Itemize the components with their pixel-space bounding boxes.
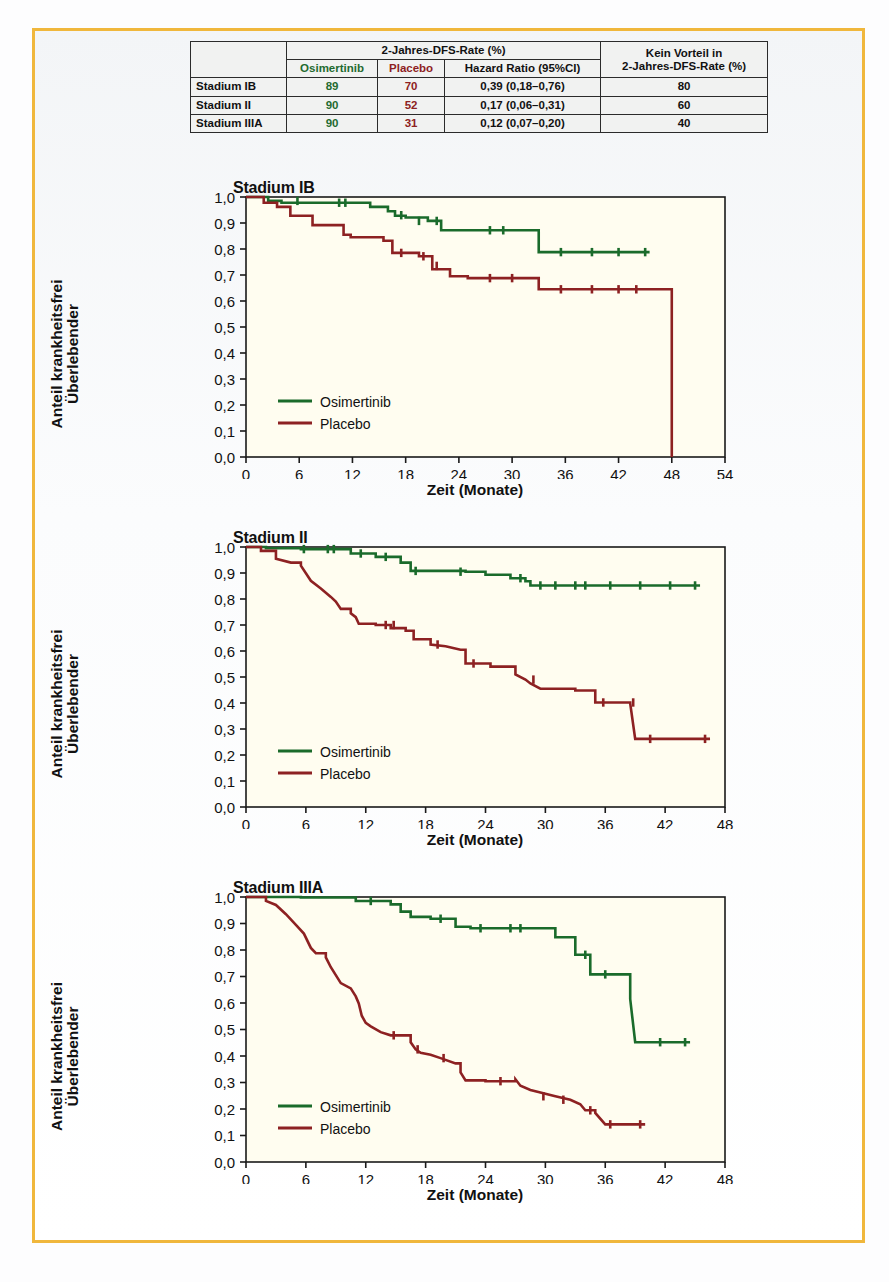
chart-plot-area: 0,00,10,20,30,40,50,60,70,80,91,00612182… bbox=[35, 179, 868, 479]
table-corner-cell bbox=[191, 42, 287, 78]
chart-plot-area: 0,00,10,20,30,40,50,60,70,80,91,00612182… bbox=[35, 879, 868, 1184]
y-tick-label: 0,0 bbox=[214, 799, 235, 816]
table-col-placebo: Placebo bbox=[378, 60, 445, 78]
y-tick-label: 0,6 bbox=[214, 293, 235, 310]
x-tick-label: 42 bbox=[610, 466, 627, 479]
kein-vorteil-line2: 2-Jahres-DFS-Rate (%) bbox=[622, 60, 746, 72]
x-tick-label: 24 bbox=[477, 816, 494, 829]
y-tick-label: 0,2 bbox=[214, 1101, 235, 1118]
row-kein-vorteil-value: 40 bbox=[601, 114, 768, 132]
x-tick-label: 24 bbox=[477, 1171, 494, 1184]
x-tick-label: 0 bbox=[242, 1171, 250, 1184]
chart-stadium-ib: Stadium IB Anteil krankheitsfrei Überleb… bbox=[35, 179, 868, 509]
row-placebo-value: 52 bbox=[378, 96, 445, 114]
x-tick-label: 48 bbox=[717, 1171, 734, 1184]
legend-label-placebo: Placebo bbox=[320, 416, 371, 432]
y-tick-label: 1,0 bbox=[214, 539, 235, 556]
row-kein-vorteil-value: 60 bbox=[601, 96, 768, 114]
figure-frame: 2-Jahres-DFS-Rate (%) Kein Vorteil in 2-… bbox=[32, 28, 865, 1243]
y-tick-label: 0,6 bbox=[214, 643, 235, 660]
y-tick-label: 0,9 bbox=[214, 215, 235, 232]
x-tick-label: 18 bbox=[397, 466, 414, 479]
y-tick-label: 0,1 bbox=[214, 773, 235, 790]
plot-background bbox=[246, 897, 725, 1162]
y-tick-label: 0,1 bbox=[214, 1127, 235, 1144]
row-osimertinib-value: 90 bbox=[286, 114, 377, 132]
y-tick-label: 0,7 bbox=[214, 617, 235, 634]
y-tick-label: 1,0 bbox=[214, 889, 235, 906]
x-tick-label: 12 bbox=[357, 816, 374, 829]
row-osimertinib-value: 89 bbox=[286, 78, 377, 96]
y-tick-label: 0,0 bbox=[214, 449, 235, 466]
x-tick-label: 0 bbox=[242, 466, 250, 479]
table-row: Stadium IB 89 70 0,39 (0,18–0,76) 80 bbox=[191, 78, 768, 96]
row-stage-label: Stadium IB bbox=[191, 78, 287, 96]
x-tick-label: 24 bbox=[451, 466, 468, 479]
y-tick-label: 0,4 bbox=[214, 695, 235, 712]
y-tick-label: 0,4 bbox=[214, 1048, 235, 1065]
y-tick-label: 0,5 bbox=[214, 319, 235, 336]
y-tick-label: 0,2 bbox=[214, 397, 235, 414]
y-tick-label: 0,9 bbox=[214, 915, 235, 932]
x-axis-label: Zeit (Monate) bbox=[225, 831, 725, 849]
legend-label-osimertinib: Osimertinib bbox=[320, 744, 391, 760]
y-tick-label: 1,0 bbox=[214, 189, 235, 206]
table-row: Stadium IIIA 90 31 0,12 (0,07–0,20) 40 bbox=[191, 114, 768, 132]
table-col-osimertinib: Osimertinib bbox=[286, 60, 377, 78]
row-stage-label: Stadium II bbox=[191, 96, 287, 114]
legend-label-placebo: Placebo bbox=[320, 1121, 371, 1137]
legend-label-osimertinib: Osimertinib bbox=[320, 394, 391, 410]
table-header-kein-vorteil: Kein Vorteil in 2-Jahres-DFS-Rate (%) bbox=[601, 42, 768, 78]
chart-stadium-iiia: Stadium IIIA Anteil krankheitsfrei Überl… bbox=[35, 879, 868, 1219]
y-tick-label: 0,7 bbox=[214, 267, 235, 284]
y-tick-label: 0,9 bbox=[214, 565, 235, 582]
x-tick-label: 6 bbox=[302, 1171, 310, 1184]
x-tick-label: 54 bbox=[717, 466, 734, 479]
x-axis-label: Zeit (Monate) bbox=[225, 1186, 725, 1204]
x-axis-label: Zeit (Monate) bbox=[225, 481, 725, 499]
summary-table: 2-Jahres-DFS-Rate (%) Kein Vorteil in 2-… bbox=[190, 41, 768, 133]
row-hazard-ratio-value: 0,17 (0,06–0,31) bbox=[444, 96, 600, 114]
row-kein-vorteil-value: 80 bbox=[601, 78, 768, 96]
x-tick-label: 42 bbox=[657, 816, 674, 829]
y-tick-label: 0,8 bbox=[214, 942, 235, 959]
table-group-header-dfs: 2-Jahres-DFS-Rate (%) bbox=[286, 42, 600, 60]
summary-table-container: 2-Jahres-DFS-Rate (%) Kein Vorteil in 2-… bbox=[190, 41, 768, 133]
table-col-hazard-ratio: Hazard Ratio (95%CI) bbox=[444, 60, 600, 78]
row-placebo-value: 31 bbox=[378, 114, 445, 132]
x-tick-label: 6 bbox=[302, 816, 310, 829]
row-stage-label: Stadium IIIA bbox=[191, 114, 287, 132]
x-tick-label: 12 bbox=[357, 1171, 374, 1184]
y-tick-label: 0,5 bbox=[214, 1021, 235, 1038]
table-row: Stadium II 90 52 0,17 (0,06–0,31) 60 bbox=[191, 96, 768, 114]
x-tick-label: 48 bbox=[663, 466, 680, 479]
x-tick-label: 42 bbox=[657, 1171, 674, 1184]
row-hazard-ratio-value: 0,12 (0,07–0,20) bbox=[444, 114, 600, 132]
x-tick-label: 18 bbox=[417, 1171, 434, 1184]
y-tick-label: 0,3 bbox=[214, 371, 235, 388]
y-tick-label: 0,1 bbox=[214, 423, 235, 440]
row-hazard-ratio-value: 0,39 (0,18–0,76) bbox=[444, 78, 600, 96]
y-tick-label: 0,0 bbox=[214, 1154, 235, 1171]
y-tick-label: 0,3 bbox=[214, 721, 235, 738]
chart-plot-area: 0,00,10,20,30,40,50,60,70,80,91,00612182… bbox=[35, 529, 868, 829]
x-tick-label: 30 bbox=[504, 466, 521, 479]
x-tick-label: 30 bbox=[537, 1171, 554, 1184]
y-tick-label: 0,6 bbox=[214, 995, 235, 1012]
x-tick-label: 0 bbox=[242, 816, 250, 829]
row-osimertinib-value: 90 bbox=[286, 96, 377, 114]
row-placebo-value: 70 bbox=[378, 78, 445, 96]
y-tick-label: 0,4 bbox=[214, 345, 235, 362]
legend-label-osimertinib: Osimertinib bbox=[320, 1099, 391, 1115]
y-tick-label: 0,5 bbox=[214, 669, 235, 686]
y-tick-label: 0,8 bbox=[214, 591, 235, 608]
x-tick-label: 36 bbox=[597, 1171, 614, 1184]
chart-stadium-ii: Stadium II Anteil krankheitsfrei Überleb… bbox=[35, 529, 868, 859]
kein-vorteil-line1: Kein Vorteil in bbox=[646, 47, 722, 59]
legend-label-placebo: Placebo bbox=[320, 766, 371, 782]
y-tick-label: 0,7 bbox=[214, 968, 235, 985]
x-tick-label: 6 bbox=[295, 466, 303, 479]
plot-background bbox=[246, 197, 725, 457]
x-tick-label: 18 bbox=[417, 816, 434, 829]
x-tick-label: 30 bbox=[537, 816, 554, 829]
